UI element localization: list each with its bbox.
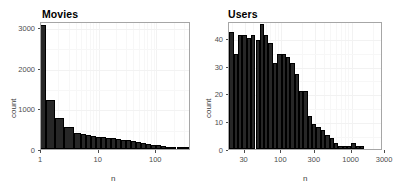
x-tick-label: 30 (239, 155, 247, 164)
y-tick-label: 40 (215, 34, 223, 43)
y-tick-label: 20 (215, 90, 223, 99)
y-tick-mark (226, 39, 229, 40)
x-tick-mark (314, 150, 315, 153)
x-tick-mark (244, 150, 245, 153)
y-tick-label: 2000 (18, 64, 35, 73)
y-tick-label: 0 (219, 146, 223, 155)
histogram-bar (55, 118, 64, 149)
gridline-minor-vertical (373, 23, 374, 149)
plot-area-users (228, 22, 382, 150)
x-axis-label-users: n (303, 174, 307, 183)
y-tick-mark (226, 94, 229, 95)
y-tick-label: 1000 (18, 105, 35, 114)
gridline-minor-horizontal (41, 90, 189, 91)
y-tick-label: 0 (31, 146, 35, 155)
gridline-horizontal (41, 110, 189, 111)
x-axis-label-movies: n (111, 174, 115, 183)
x-tick-label: 3000 (376, 155, 393, 164)
y-tick-mark (226, 150, 229, 151)
x-tick-mark (155, 150, 156, 153)
x-tick-label: 300 (308, 155, 321, 164)
panel-users: Users count n 0102030403010030010003000 (202, 0, 404, 188)
x-tick-label: 100 (274, 155, 287, 164)
panel-title-users: Users (228, 8, 258, 20)
histogram-bar (64, 127, 73, 149)
histogram-bar (74, 133, 81, 149)
x-tick-label: 1000 (342, 155, 359, 164)
plot-area-movies (40, 22, 190, 150)
figure-root: Movies count n 0100020003000110100 Users… (0, 0, 404, 188)
gridline-horizontal (41, 70, 189, 71)
y-tick-mark (38, 69, 41, 70)
x-tick-mark (280, 150, 281, 153)
gridline-vertical (352, 23, 353, 149)
gridline-minor-vertical (345, 23, 346, 149)
y-tick-label: 3000 (18, 24, 35, 33)
gridline-minor-vertical (341, 23, 342, 149)
panel-title-movies: Movies (42, 8, 78, 20)
y-axis-label-users: count (204, 98, 213, 118)
y-tick-mark (38, 28, 41, 29)
x-tick-mark (40, 150, 41, 153)
y-tick-mark (38, 109, 41, 110)
gridline-minor-horizontal (41, 49, 189, 50)
panel-movies: Movies count n 0100020003000110100 (0, 0, 202, 188)
gridline-minor-vertical (336, 23, 337, 149)
y-axis-label-movies: count (9, 98, 18, 118)
y-tick-label: 30 (215, 62, 223, 71)
histogram-bar (46, 100, 55, 149)
bar-series-users (229, 23, 381, 149)
x-tick-mark (98, 150, 99, 153)
x-tick-label: 100 (149, 155, 162, 164)
gridline-minor-vertical (348, 23, 349, 149)
histogram-bar (187, 147, 190, 149)
x-tick-mark (351, 150, 352, 153)
y-tick-label: 10 (215, 118, 223, 127)
y-tick-mark (226, 67, 229, 68)
histogram-bar (360, 146, 364, 149)
x-tick-label: 10 (93, 155, 101, 164)
y-tick-mark (226, 122, 229, 123)
bar-series-movies (41, 23, 189, 149)
gridline-horizontal (41, 29, 189, 30)
x-tick-label: 1 (38, 155, 42, 164)
gridline-minor-vertical (330, 23, 331, 149)
x-tick-mark (384, 150, 385, 153)
